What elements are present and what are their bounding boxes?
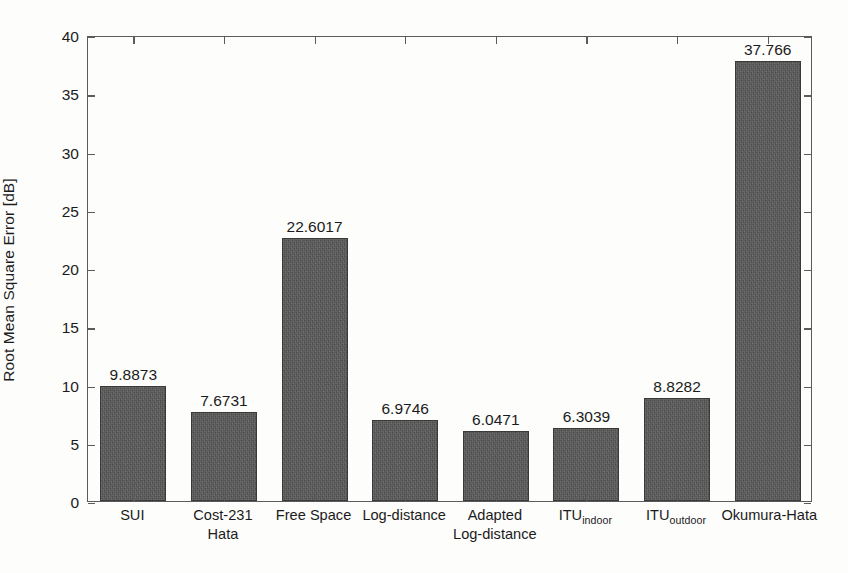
bar: 6.9746	[372, 420, 438, 501]
x-axis-tick-mark-top	[677, 37, 678, 44]
y-axis-title: Root Mean Square Error [dB]	[0, 47, 22, 513]
x-axis-tick-mark	[586, 494, 587, 501]
y-axis-tick-mark	[88, 154, 95, 155]
x-axis-tick-mark	[315, 494, 316, 501]
bar-value-label: 7.6731	[200, 392, 247, 410]
x-axis-tick-label: Free Space	[268, 506, 359, 525]
y-axis-tick-label: 40	[62, 28, 79, 46]
bar-value-label: 22.6017	[287, 218, 343, 236]
y-axis-tick-label: 25	[62, 203, 79, 221]
x-axis-tick-mark	[496, 494, 497, 501]
y-axis-tick-label: 30	[62, 145, 79, 163]
y-axis-tick-mark-right	[804, 95, 811, 96]
y-axis-tick-label: 5	[70, 436, 79, 454]
y-axis-tick-mark	[88, 445, 95, 446]
bar: 22.6017	[282, 238, 348, 501]
x-axis-tick-mark	[768, 494, 769, 501]
y-axis-tick-mark-right	[804, 37, 811, 38]
bar-value-label: 6.9746	[381, 400, 428, 418]
bar-value-label: 8.8282	[653, 378, 700, 396]
bar: 8.8282	[644, 398, 710, 501]
bar: 6.0471	[463, 431, 529, 501]
y-axis-tick-label: 0	[70, 494, 79, 512]
bar: 37.766	[735, 61, 801, 501]
x-axis-tick-mark-top	[768, 37, 769, 44]
x-axis-tick-mark	[677, 494, 678, 501]
x-axis-tick-label-line2: Hata	[178, 525, 269, 544]
x-axis-tick-label: AdaptedLog-distance	[450, 506, 541, 544]
y-axis-tick-mark-right	[804, 154, 811, 155]
x-axis-tick-label: Log-distance	[359, 506, 450, 525]
y-axis-tick-label: 15	[62, 319, 79, 337]
y-axis-tick-mark	[88, 328, 95, 329]
bar-value-label: 6.0471	[472, 411, 519, 429]
y-axis-tick-mark-right	[804, 212, 811, 213]
y-axis-tick-mark-right	[804, 328, 811, 329]
x-axis-tick-label-subscript: indoor	[582, 514, 612, 526]
x-axis-tick-label: ITUoutdoor	[631, 506, 722, 526]
y-axis-tick-label: 10	[62, 378, 79, 396]
y-axis-tick-mark	[88, 212, 95, 213]
bar: 9.8873	[100, 386, 166, 501]
x-axis-tick-label: ITUindoor	[540, 506, 631, 526]
x-axis-tick-label-subscript: outdoor	[670, 514, 707, 526]
y-axis-tick-mark	[88, 270, 95, 271]
y-axis-tick-label: 20	[62, 261, 79, 279]
y-axis-tick-mark	[88, 37, 95, 38]
bar-chart-figure: Root Mean Square Error [dB] 403530252015…	[0, 0, 848, 573]
y-axis-tick-mark	[88, 503, 95, 504]
x-axis-tick-mark	[133, 494, 134, 501]
bar-value-label: 9.8873	[110, 366, 157, 384]
y-axis-tick-label: 35	[62, 86, 79, 104]
bar: 7.6731	[191, 412, 257, 501]
x-axis-tick-mark-top	[133, 37, 134, 44]
x-axis-tick-mark	[224, 494, 225, 501]
bar: 6.3039	[553, 428, 619, 501]
x-axis-tick-mark-top	[405, 37, 406, 44]
x-axis-tick-label: Cost-231Hata	[178, 506, 269, 544]
x-axis-tick-label: Okumura-Hata	[721, 506, 812, 525]
x-axis-tick-mark-top	[315, 37, 316, 44]
y-axis-tick-mark	[88, 387, 95, 388]
x-axis-tick-mark-top	[496, 37, 497, 44]
x-axis-tick-mark-top	[224, 37, 225, 44]
plot-area: 40353025201510509.88737.673122.60176.974…	[87, 36, 812, 502]
x-axis-tick-mark	[405, 494, 406, 501]
x-axis-tick-label: SUI	[87, 506, 178, 525]
y-axis-tick-mark-right	[804, 445, 811, 446]
y-axis-tick-mark-right	[804, 503, 811, 504]
y-axis-tick-mark-right	[804, 387, 811, 388]
y-axis-tick-mark	[88, 95, 95, 96]
bar-value-label: 6.3039	[563, 408, 610, 426]
x-axis-tick-label-line2: Log-distance	[450, 525, 541, 544]
y-axis-tick-mark-right	[804, 270, 811, 271]
x-axis-tick-mark-top	[586, 37, 587, 44]
